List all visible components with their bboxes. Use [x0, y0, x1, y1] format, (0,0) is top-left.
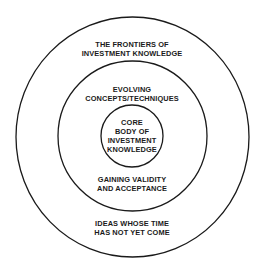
middle-ring-bottom-label: GAINING VALIDITY AND ACCEPTANCE — [32, 175, 232, 193]
label-line: GAINING VALIDITY — [32, 175, 232, 184]
label-line: AND ACCEPTANCE — [32, 184, 232, 193]
middle-ring-top-label: EVOLVING CONCEPTS/TECHNIQUES — [32, 85, 232, 103]
core-label: CORE BODY OF INVESTMENT KNOWLEDGE — [32, 118, 232, 154]
label-line: KNOWLEDGE — [32, 145, 232, 154]
outer-ring-top-label: THE FRONTIERS OF INVESTMENT KNOWLEDGE — [32, 40, 232, 58]
label-line: BODY OF — [32, 127, 232, 136]
label-line: INVESTMENT — [32, 136, 232, 145]
outer-ring-bottom-label: IDEAS WHOSE TIME HAS NOT YET COME — [32, 219, 232, 237]
label-line: THE FRONTIERS OF — [32, 40, 232, 49]
label-line: CONCEPTS/TECHNIQUES — [32, 94, 232, 103]
label-line: INVESTMENT KNOWLEDGE — [32, 49, 232, 58]
label-line: IDEAS WHOSE TIME — [32, 219, 232, 228]
label-line: EVOLVING — [32, 85, 232, 94]
label-line: HAS NOT YET COME — [32, 228, 232, 237]
label-line: CORE — [32, 118, 232, 127]
